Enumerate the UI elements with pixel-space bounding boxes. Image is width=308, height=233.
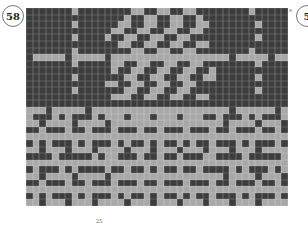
pattern-grid xyxy=(26,8,288,206)
grid-cell xyxy=(281,81,288,88)
page-number: 25 xyxy=(96,218,102,224)
grid-cell xyxy=(281,54,288,61)
grid-cell xyxy=(281,160,288,167)
grid-cell xyxy=(281,140,288,147)
grid-cell xyxy=(281,100,288,107)
grid-cell xyxy=(281,114,288,121)
grid-cell xyxy=(281,120,288,127)
grid-cell xyxy=(281,173,288,180)
grid-cell xyxy=(281,28,288,35)
grid-cell xyxy=(281,193,288,200)
grid-cell xyxy=(281,94,288,101)
chart-number-label: 58 xyxy=(6,11,20,22)
chart-number-badge: 58 xyxy=(2,5,24,27)
grid-cell xyxy=(281,74,288,81)
next-chart-number-badge: 5 xyxy=(296,5,308,27)
corner-mark: R xyxy=(289,8,292,13)
next-chart-number-label: 5 xyxy=(304,11,308,22)
grid-cell xyxy=(281,166,288,173)
grid-cell xyxy=(281,147,288,154)
grid-cell xyxy=(281,48,288,55)
grid-cell xyxy=(281,8,288,15)
grid-cell xyxy=(281,67,288,74)
grid-cell xyxy=(281,107,288,114)
grid-cell xyxy=(281,199,288,206)
grid-cell xyxy=(281,34,288,41)
grid-cell xyxy=(281,180,288,187)
grid-cell xyxy=(281,21,288,28)
grid-cell xyxy=(281,186,288,193)
grid-cell xyxy=(281,15,288,22)
grid-cell xyxy=(281,61,288,68)
grid-cell xyxy=(281,153,288,160)
grid-cell xyxy=(281,41,288,48)
grid-cell xyxy=(281,127,288,134)
grid-cell xyxy=(281,87,288,94)
grid-cell xyxy=(281,133,288,140)
